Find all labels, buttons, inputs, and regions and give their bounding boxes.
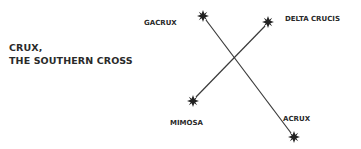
line-gacrux-acrux <box>206 20 291 133</box>
line-delta-mimosa <box>196 26 265 97</box>
label-mimosa: MIMOSA <box>170 119 203 127</box>
star-delta-crucis-icon <box>262 16 274 28</box>
star-gacrux-icon <box>197 10 209 22</box>
label-acrux: ACRUX <box>283 115 310 123</box>
label-delta-crucis: DELTA CRUCIS <box>285 15 340 23</box>
star-acrux-icon <box>288 131 300 143</box>
star-mimosa-icon <box>187 95 199 107</box>
label-gacrux: GACRUX <box>144 19 177 27</box>
